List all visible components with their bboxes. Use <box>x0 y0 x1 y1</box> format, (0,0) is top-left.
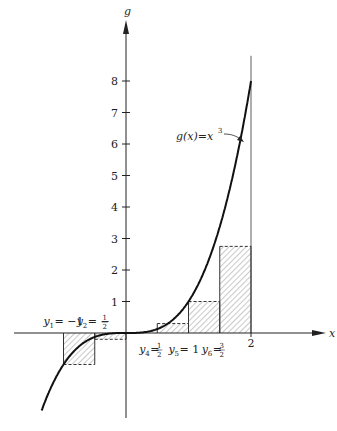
y-tick-label: 5 <box>111 170 118 183</box>
partition-subscript: 1 <box>50 322 54 330</box>
riemann-rectangle <box>64 333 95 365</box>
y-axis-label: g <box>124 5 131 18</box>
partition-value: = 1 <box>180 343 200 356</box>
riemann-rectangle <box>189 302 220 334</box>
y-tick-label: 6 <box>111 138 118 151</box>
x-axis-label: x <box>329 327 336 340</box>
fraction-denominator: 2 <box>103 323 107 331</box>
x-axis-arrow-icon <box>312 330 326 336</box>
riemann-sum-diagram: 123456782xgg(x)=x3y1= −1y2= −12y4=12y5= … <box>0 0 337 431</box>
y-axis-arrow-icon <box>123 20 129 34</box>
x-tick-label: 2 <box>248 337 255 350</box>
fraction-numerator: 3 <box>220 342 224 350</box>
y-tick-label: 3 <box>111 233 118 246</box>
fraction-numerator: 1 <box>157 342 161 350</box>
y-tick-label: 4 <box>111 201 118 214</box>
fraction-numerator: 1 <box>103 314 107 322</box>
partition-subscript: 5 <box>175 350 179 358</box>
riemann-rectangle <box>157 324 188 333</box>
y-tick-label: 8 <box>111 75 118 88</box>
partition-point-label: y6=32 <box>201 342 225 359</box>
partition-point-label: y4=12 <box>138 342 162 359</box>
function-label-exponent: 3 <box>218 127 222 135</box>
partition-subscript: 2 <box>83 322 87 330</box>
fraction-denominator: 2 <box>220 351 224 359</box>
function-label: g(x)=x <box>176 130 214 143</box>
fraction-denominator: 2 <box>157 351 161 359</box>
riemann-rectangle <box>220 246 251 333</box>
partition-point-label: y5= 1 <box>168 343 200 358</box>
partition-point-label: y2= −12 <box>76 314 110 331</box>
y-tick-label: 1 <box>111 296 118 309</box>
y-tick-label: 7 <box>111 107 118 120</box>
y-tick-label: 2 <box>111 264 118 277</box>
